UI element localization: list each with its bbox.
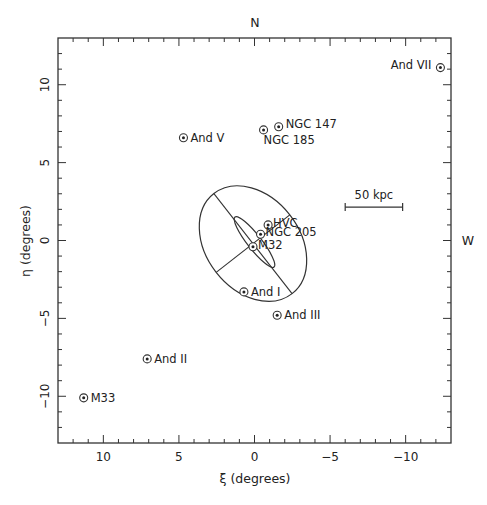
point-label: And II [154, 352, 187, 366]
x-tick-label: 0 [251, 450, 259, 464]
y-tick-label: −10 [38, 384, 52, 409]
point-label: And VII [391, 58, 432, 72]
dot-marker-icon [242, 290, 245, 293]
y-tick-label: 10 [38, 77, 52, 92]
dot-marker-icon [182, 136, 185, 139]
data-point: And II [143, 352, 187, 366]
annotations: 50 kpc [177, 165, 403, 323]
data-point: NGC 147 [275, 117, 337, 131]
point-label: And V [190, 131, 224, 145]
dot-marker-icon [82, 396, 85, 399]
dot-marker-icon [439, 66, 442, 69]
x-tick-label: 10 [96, 450, 111, 464]
y-axis-title: η (degrees) [18, 205, 33, 277]
dot-marker-icon [259, 233, 262, 236]
plot-frame [58, 38, 451, 443]
x-axis-title: ξ (degrees) [219, 471, 290, 486]
point-label: And III [284, 308, 320, 322]
x-tick-label: 5 [175, 450, 183, 464]
chart: 50 kpc And VIINGC 147NGC 185And VHVCNGC … [0, 0, 487, 505]
data-point: And V [179, 131, 224, 145]
data-point: And VII [391, 58, 445, 72]
dot-marker-icon [262, 128, 265, 131]
dot-marker-icon [146, 357, 149, 360]
point-label: NGC 147 [286, 117, 337, 131]
point-label: M33 [91, 391, 116, 405]
point-label: NGC 185 [264, 133, 315, 147]
x-tick-label: −5 [321, 450, 339, 464]
axis-ticks [58, 38, 451, 443]
scale-bar: 50 kpc [345, 188, 402, 211]
scale-bar-label: 50 kpc [355, 188, 394, 202]
north-label: N [250, 15, 259, 30]
point-label: And I [251, 285, 281, 299]
y-tick-label: 5 [38, 159, 52, 167]
data-point: M32 [249, 238, 283, 252]
point-label: M32 [258, 238, 283, 252]
data-point: And III [273, 308, 320, 322]
y-tick-label: −5 [38, 310, 52, 328]
y-tick-label: 0 [38, 237, 52, 245]
west-label: W [462, 233, 474, 248]
data-point: M33 [80, 391, 116, 405]
dot-marker-icon [277, 125, 280, 128]
dot-marker-icon [251, 245, 254, 248]
tick-labels: 1050−5−101050−5−10 [38, 77, 418, 464]
dot-marker-icon [276, 314, 279, 317]
data-points: And VIINGC 147NGC 185And VHVCNGC 205M32A… [80, 58, 445, 405]
x-tick-label: −10 [393, 450, 418, 464]
